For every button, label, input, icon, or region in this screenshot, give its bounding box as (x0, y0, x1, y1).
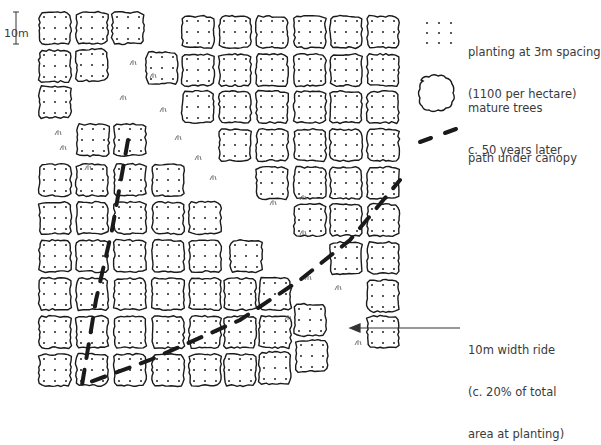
dot-grid-icon (426, 22, 452, 44)
scale-label: 10m (4, 27, 29, 40)
legend-path-text: path under canopy (468, 123, 577, 179)
ride-annotation: 10m width ride (c. 20% of total area at … (468, 315, 564, 445)
legend-planting-line1: planting at 3m spacing (468, 45, 601, 59)
tree-canopy-icon (419, 75, 455, 112)
legend-path-line1: path under canopy (468, 151, 577, 165)
legend-mature-line1: mature trees (468, 101, 562, 115)
ride-annotation-line1: 10m width ride (468, 343, 564, 357)
ride-annotation-line3: area at planting) (468, 427, 564, 441)
ride-annotation-line2: (c. 20% of total (468, 385, 564, 399)
dashed-path-icon (420, 129, 456, 142)
